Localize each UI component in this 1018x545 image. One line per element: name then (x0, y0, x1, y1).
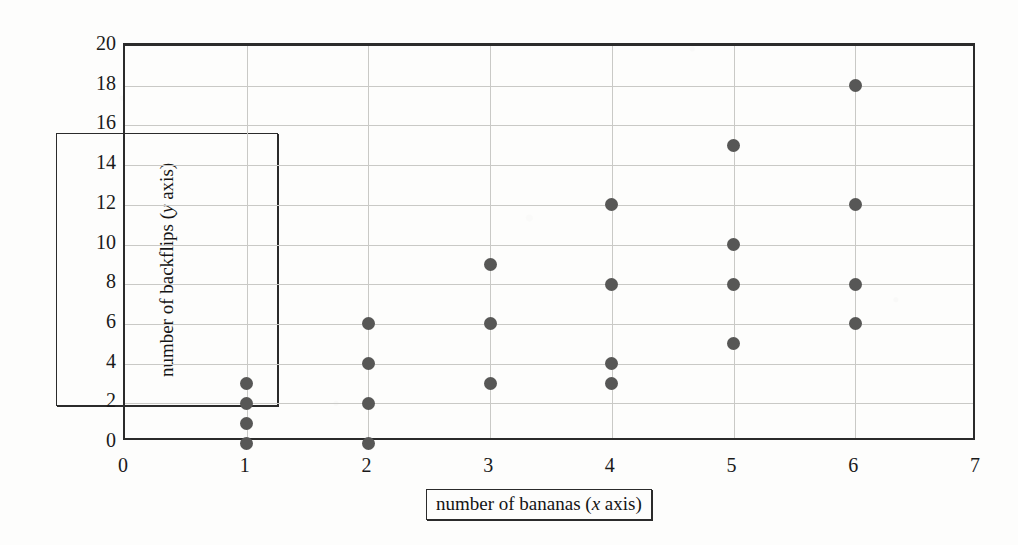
data-point (484, 258, 497, 271)
scatter-plot-frame (123, 43, 975, 440)
gridline-horizontal (125, 165, 973, 166)
data-point (849, 278, 862, 291)
data-point (727, 139, 740, 152)
y-tick-label: 12 (76, 192, 116, 212)
x-axis-tick-labels: 01234567 (123, 455, 975, 481)
data-point (240, 397, 253, 410)
y-tick-label: 10 (76, 232, 116, 252)
gridline-horizontal (125, 86, 973, 87)
data-point (605, 357, 618, 370)
data-point (240, 417, 253, 430)
x-axis-title: number of bananas (x axis) (426, 489, 652, 520)
data-point (727, 238, 740, 251)
data-point (849, 198, 862, 211)
x-tick-label: 4 (590, 455, 630, 475)
y-tick-label: 20 (76, 33, 116, 53)
x-tick-label: 1 (225, 455, 265, 475)
gridline-horizontal (125, 245, 973, 246)
gridline-vertical (855, 46, 856, 438)
y-axis-tick-labels: 02468101214161820 (68, 43, 116, 440)
x-tick-label: 5 (712, 455, 752, 475)
x-axis-title-lead: number of bananas ( (436, 493, 592, 514)
gridline-horizontal (125, 324, 973, 325)
scanned-page: number of backflips (y axis) 02468101214… (0, 0, 1018, 545)
data-point (362, 397, 375, 410)
data-point (727, 278, 740, 291)
gridline-vertical (368, 46, 369, 438)
gridline-horizontal (125, 125, 973, 126)
data-point (849, 79, 862, 92)
data-point (362, 437, 375, 450)
y-tick-label: 2 (76, 390, 116, 410)
data-point (240, 377, 253, 390)
x-tick-label: 0 (103, 455, 143, 475)
gridline-horizontal (125, 364, 973, 365)
data-point (849, 317, 862, 330)
y-tick-label: 4 (76, 351, 116, 371)
x-tick-label: 6 (833, 455, 873, 475)
x-axis-title-variable: x (592, 493, 600, 514)
x-tick-label: 3 (468, 455, 508, 475)
x-axis-title-trail: axis) (600, 493, 642, 514)
y-tick-label: 18 (76, 73, 116, 93)
y-tick-label: 0 (76, 430, 116, 450)
data-point (484, 317, 497, 330)
data-point (362, 357, 375, 370)
y-tick-label: 8 (76, 271, 116, 291)
data-point (605, 278, 618, 291)
y-tick-label: 14 (76, 152, 116, 172)
y-tick-label: 16 (76, 112, 116, 132)
x-tick-label: 2 (346, 455, 386, 475)
data-point (605, 198, 618, 211)
data-point (362, 317, 375, 330)
y-tick-label: 6 (76, 311, 116, 331)
plot-area (125, 46, 973, 438)
data-point (240, 437, 253, 450)
data-point (605, 377, 618, 390)
gridline-horizontal (125, 205, 973, 206)
x-tick-label: 7 (955, 455, 995, 475)
data-point (484, 377, 497, 390)
gridline-horizontal (125, 284, 973, 285)
data-point (727, 337, 740, 350)
